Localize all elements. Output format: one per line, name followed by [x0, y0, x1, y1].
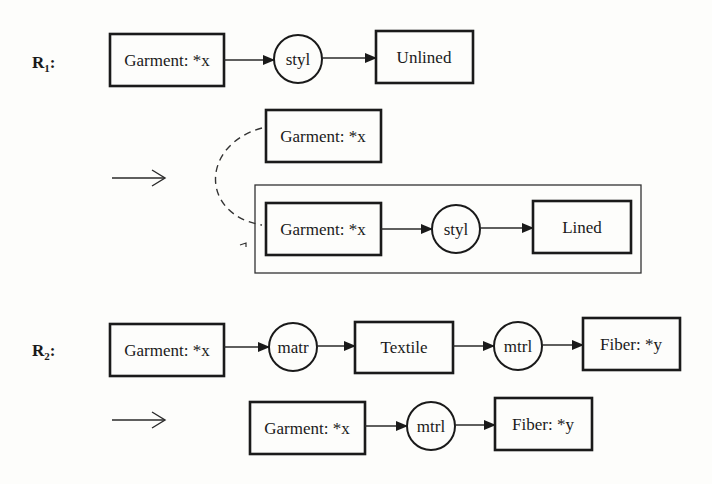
svg-text:matr: matr [277, 338, 308, 357]
concept-node-unlined: Unlined [376, 31, 473, 83]
relation-node-mtrl: mtrl [407, 402, 455, 450]
concept-node-lined: Lined [533, 201, 631, 253]
rule-2-rhs: Garment: *x mtrl Fiber: *y [250, 398, 592, 454]
svg-text:Lined: Lined [562, 218, 602, 237]
relation-node-mtrl: mtrl [494, 322, 542, 370]
concept-node-garment: Garment: *x [110, 34, 224, 86]
svg-text:Fiber: *y: Fiber: *y [512, 415, 574, 434]
svg-text:styl: styl [286, 50, 311, 69]
relation-node-matr: matr [269, 323, 317, 371]
detached-concept-garment: Garment: *x [266, 110, 381, 162]
concept-node-garment: Garment: *x [266, 203, 381, 255]
rule-1-label: R1: [32, 53, 55, 74]
svg-text:styl: styl [444, 220, 469, 239]
stray-mark [240, 243, 246, 247]
concept-node-garment: Garment: *x [110, 324, 224, 376]
svg-text:mtrl: mtrl [504, 337, 533, 356]
svg-text:Garment: *x: Garment: *x [280, 127, 366, 146]
svg-text:mtrl: mtrl [417, 417, 446, 436]
rule-1-lhs: Garment: *x styl Unlined [110, 31, 473, 86]
svg-text:Textile: Textile [381, 338, 428, 357]
concept-node-textile: Textile [355, 322, 453, 373]
relation-node-styl: styl [274, 35, 322, 83]
implies-arrow-2 [112, 412, 165, 428]
implies-arrow-1 [112, 170, 165, 186]
svg-text:Garment: *x: Garment: *x [124, 341, 210, 360]
rule-2-lhs: Garment: *x matr Textile mtrl Fiber: *y [110, 318, 680, 376]
relation-node-styl: styl [432, 205, 480, 253]
rule-1-rhs: Garment: *x Garment: *x styl Lined [216, 110, 642, 273]
rule-2-label: R2: [32, 341, 55, 362]
rule-2: R2: Garment: *x matr Textile mtrl [32, 318, 680, 454]
conceptual-graph-rules-diagram: R1: Garment: *x styl Unlined [0, 0, 712, 484]
rule-1: R1: Garment: *x styl Unlined [32, 31, 641, 273]
svg-text:Garment: *x: Garment: *x [124, 51, 210, 70]
concept-node-garment: Garment: *x [250, 402, 365, 454]
svg-text:Garment: *x: Garment: *x [280, 220, 366, 239]
svg-text:Fiber: *y: Fiber: *y [600, 335, 662, 354]
svg-text:Unlined: Unlined [397, 48, 452, 67]
concept-node-fiber: Fiber: *y [495, 398, 592, 450]
svg-text:Garment: *x: Garment: *x [264, 419, 350, 438]
concept-node-fiber: Fiber: *y [583, 318, 680, 370]
